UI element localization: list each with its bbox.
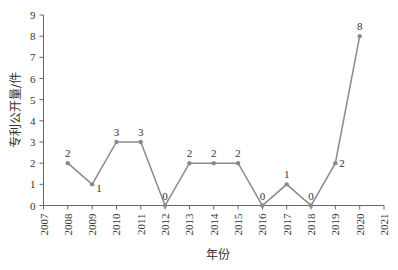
x-tick-label: 2015 xyxy=(232,213,244,236)
data-label: 1 xyxy=(284,168,290,180)
y-axis-title: 专利公开量/件 xyxy=(8,72,23,148)
x-tick-label: 2007 xyxy=(38,213,50,236)
axes: 0123456789200720082009201020112012201320… xyxy=(30,9,390,236)
data-point-marker xyxy=(212,161,216,165)
x-tick-label: 2014 xyxy=(208,213,220,236)
data-point-marker xyxy=(236,161,240,165)
x-tick-label: 2017 xyxy=(281,213,293,236)
y-tick-label: 1 xyxy=(30,178,36,190)
x-tick-label: 2020 xyxy=(354,213,366,236)
y-tick-label: 9 xyxy=(30,9,36,21)
x-tick-label: 2011 xyxy=(135,214,147,236)
y-tick-label: 7 xyxy=(30,51,36,63)
data-series: 2133022201028 xyxy=(65,20,363,208)
data-point-marker xyxy=(333,161,337,165)
x-tick-label: 2010 xyxy=(110,213,122,236)
data-label: 1 xyxy=(96,182,102,194)
data-label: 2 xyxy=(235,147,241,159)
x-axis-title: 年份 xyxy=(206,248,230,262)
y-tick-label: 6 xyxy=(30,73,36,85)
x-tick-label: 2019 xyxy=(329,213,341,236)
data-point-marker xyxy=(285,182,289,186)
data-label: 3 xyxy=(138,126,144,138)
data-point-marker xyxy=(187,161,191,165)
x-tick-label: 2012 xyxy=(159,214,171,236)
data-point-marker xyxy=(139,140,143,144)
data-label: 2 xyxy=(339,157,345,169)
data-point-marker xyxy=(309,203,313,207)
y-tick-label: 4 xyxy=(30,115,36,127)
data-point-marker xyxy=(163,203,167,207)
x-tick-label: 2008 xyxy=(62,213,74,236)
x-tick-label: 2016 xyxy=(256,213,268,236)
y-tick-label: 2 xyxy=(30,157,36,169)
y-tick-label: 0 xyxy=(30,200,36,212)
x-tick-label: 2013 xyxy=(183,213,195,236)
data-label: 2 xyxy=(187,147,193,159)
x-tick-label: 2009 xyxy=(86,213,98,236)
data-label: 3 xyxy=(114,126,120,138)
data-label: 8 xyxy=(357,20,363,32)
data-label: 2 xyxy=(65,147,71,159)
data-label: 2 xyxy=(211,147,217,159)
data-point-marker xyxy=(114,140,118,144)
data-point-marker xyxy=(66,161,70,165)
x-tick-label: 2021 xyxy=(378,214,390,236)
data-label: 0 xyxy=(308,190,314,202)
data-point-marker xyxy=(260,203,264,207)
data-point-marker xyxy=(90,182,94,186)
data-label: 0 xyxy=(162,190,168,202)
y-tick-label: 3 xyxy=(30,136,36,148)
series-line xyxy=(68,36,360,205)
y-tick-label: 8 xyxy=(30,30,36,42)
patent-line-chart: 0123456789200720082009201020112012201320… xyxy=(0,0,398,270)
y-tick-label: 5 xyxy=(30,94,36,106)
x-tick-label: 2018 xyxy=(305,213,317,236)
data-point-marker xyxy=(357,34,361,38)
data-label: 0 xyxy=(260,190,266,202)
